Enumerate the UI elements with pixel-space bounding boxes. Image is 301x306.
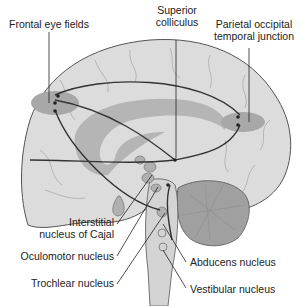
label-vestibular-nucleus: Vestibular nucleus xyxy=(190,283,275,295)
brain-diagram: Frontal eye fields Superior colliculus P… xyxy=(0,0,301,306)
label-superior-colliculus: Superior colliculus xyxy=(148,4,206,28)
superior-colliculus-line1: Superior xyxy=(148,4,206,16)
parietal-line2: temporal junction xyxy=(208,30,300,42)
label-frontal-eye-fields: Frontal eye fields xyxy=(9,18,89,30)
label-abducens-nucleus: Abducens nucleus xyxy=(190,256,276,268)
label-parietal-occipital-temporal-junction: Parietal occipital temporal junction xyxy=(208,18,300,42)
label-interstitial-nucleus-of-cajal: Interstitial nucleus of Cajal xyxy=(20,216,114,240)
label-oculomotor-nucleus: Oculomotor nucleus xyxy=(10,250,114,262)
superior-colliculus-line2: colliculus xyxy=(148,16,206,28)
brainstem xyxy=(146,179,178,306)
interstitial-line1: Interstitial xyxy=(20,216,114,228)
parietal-region xyxy=(221,112,265,132)
label-trochlear-nucleus: Trochlear nucleus xyxy=(10,277,114,289)
interstitial-line2: nucleus of Cajal xyxy=(20,228,114,240)
parietal-line1: Parietal occipital xyxy=(208,18,300,30)
